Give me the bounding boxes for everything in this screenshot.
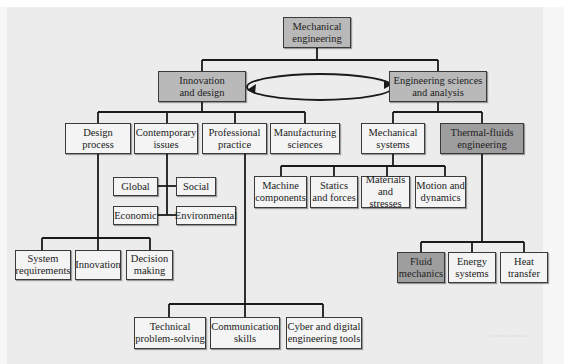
- node-cyber-and-digital-engineering-tools: Cyber and digital engineering tools: [286, 317, 362, 349]
- node-design-process: Design process: [65, 123, 131, 154]
- node-innovation: Innovation: [75, 250, 121, 280]
- node-energy-systems: Energy systems: [448, 252, 496, 283]
- node-technical-problem-solving: Technical problem-solving: [134, 317, 206, 349]
- node-statics-and-forces: Statics and forces: [310, 176, 358, 208]
- node-global: Global: [113, 177, 158, 196]
- node-mechanical-engineering: Mechanical engineering: [283, 17, 351, 48]
- node-fluid-mechanics: Fluid mechanics: [397, 252, 445, 283]
- node-decision-making: Decision making: [126, 250, 173, 280]
- node-contemporary-issues: Contemporary issues: [134, 123, 198, 154]
- node-communication-skills: Communication skills: [210, 317, 280, 349]
- node-manufacturing-sciences: Manufacturing sciences: [270, 123, 340, 154]
- node-system-requirements: System requirements: [15, 250, 71, 280]
- node-economic: Economic: [113, 206, 158, 225]
- node-innovation-and-design: Innovation and design: [158, 71, 246, 102]
- node-mechanical-systems: Mechanical systems: [361, 123, 425, 154]
- node-thermal-fluids-engineering: Thermal-fluids engineering: [440, 123, 524, 154]
- node-engineering-sciences-and-analysis: Engineering sciences and analysis: [389, 71, 487, 102]
- node-environmental: Environmental: [176, 206, 236, 225]
- node-professional-practice: Professional practice: [202, 123, 267, 154]
- node-heat-transfer: Heat transfer: [500, 252, 548, 283]
- node-materials-and-stresses: Materials and stresses: [361, 176, 410, 208]
- node-social: Social: [176, 177, 216, 196]
- node-motion-and-dynamics: Motion and dynamics: [415, 176, 466, 208]
- bleed-through-text: ~~~~~~~: [490, 330, 528, 341]
- node-machine-components: Machine components: [254, 176, 307, 208]
